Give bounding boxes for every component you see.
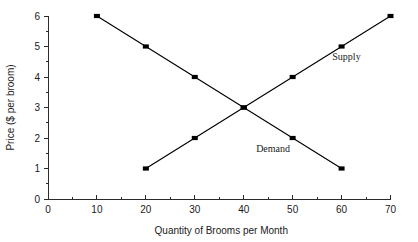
data-point-marker bbox=[339, 166, 345, 170]
x-axis-title: Quantity of Brooms per Month bbox=[155, 225, 288, 236]
x-tick-label: 30 bbox=[189, 204, 201, 215]
x-tick-label: 0 bbox=[45, 204, 51, 215]
series-label-demand: Demand bbox=[256, 143, 290, 154]
y-tick-label: 0 bbox=[34, 194, 40, 205]
data-series bbox=[94, 14, 394, 171]
x-tick-label: 60 bbox=[336, 204, 348, 215]
series-line-demand bbox=[97, 16, 342, 169]
axes bbox=[48, 16, 391, 199]
y-axis-title: Price ($ per broom) bbox=[5, 64, 16, 150]
x-axis-tick-labels: 010203040506070 bbox=[45, 204, 396, 215]
data-point-marker bbox=[192, 75, 198, 79]
data-point-marker bbox=[290, 136, 296, 140]
x-tick-label: 70 bbox=[385, 204, 397, 215]
data-point-marker bbox=[339, 44, 345, 48]
y-tick-label: 4 bbox=[34, 72, 40, 83]
y-tick-label: 6 bbox=[34, 11, 40, 22]
x-tick-label: 10 bbox=[91, 204, 103, 215]
y-axis-ticks bbox=[44, 16, 48, 199]
x-tick-label: 20 bbox=[140, 204, 152, 215]
y-tick-label: 2 bbox=[34, 133, 40, 144]
data-point-marker bbox=[192, 136, 198, 140]
y-axis-tick-labels: 0123456 bbox=[34, 11, 40, 205]
y-tick-label: 5 bbox=[34, 41, 40, 52]
data-point-marker bbox=[241, 105, 247, 109]
series-label-supply: Supply bbox=[332, 51, 360, 62]
data-point-marker bbox=[94, 14, 100, 18]
x-tick-label: 50 bbox=[287, 204, 299, 215]
data-point-marker bbox=[388, 14, 394, 18]
data-point-marker bbox=[290, 75, 296, 79]
data-point-marker bbox=[143, 166, 149, 170]
x-tick-label: 40 bbox=[238, 204, 250, 215]
chart-canvas: 010203040506070 0123456 DemandSupply Qua… bbox=[0, 0, 418, 242]
y-tick-label: 1 bbox=[34, 163, 40, 174]
y-tick-label: 3 bbox=[34, 102, 40, 113]
data-point-marker bbox=[143, 44, 149, 48]
supply-demand-chart: 010203040506070 0123456 DemandSupply Qua… bbox=[0, 0, 418, 242]
x-axis-ticks bbox=[48, 195, 391, 199]
